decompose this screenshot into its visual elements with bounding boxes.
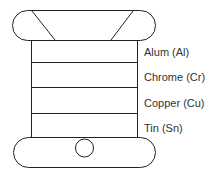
top-cap bbox=[13, 11, 156, 41]
layer-label-tin: Tin (Sn) bbox=[144, 122, 183, 134]
layer-label-chrome: Chrome (Cr) bbox=[144, 71, 205, 83]
layered-stack-diagram bbox=[0, 0, 211, 177]
layer-label-copper: Copper (Cu) bbox=[144, 97, 205, 109]
layer-label-alum: Alum (Al) bbox=[144, 46, 189, 58]
layer-stack-body bbox=[32, 41, 138, 144]
bottom-cap-circle bbox=[76, 139, 94, 157]
